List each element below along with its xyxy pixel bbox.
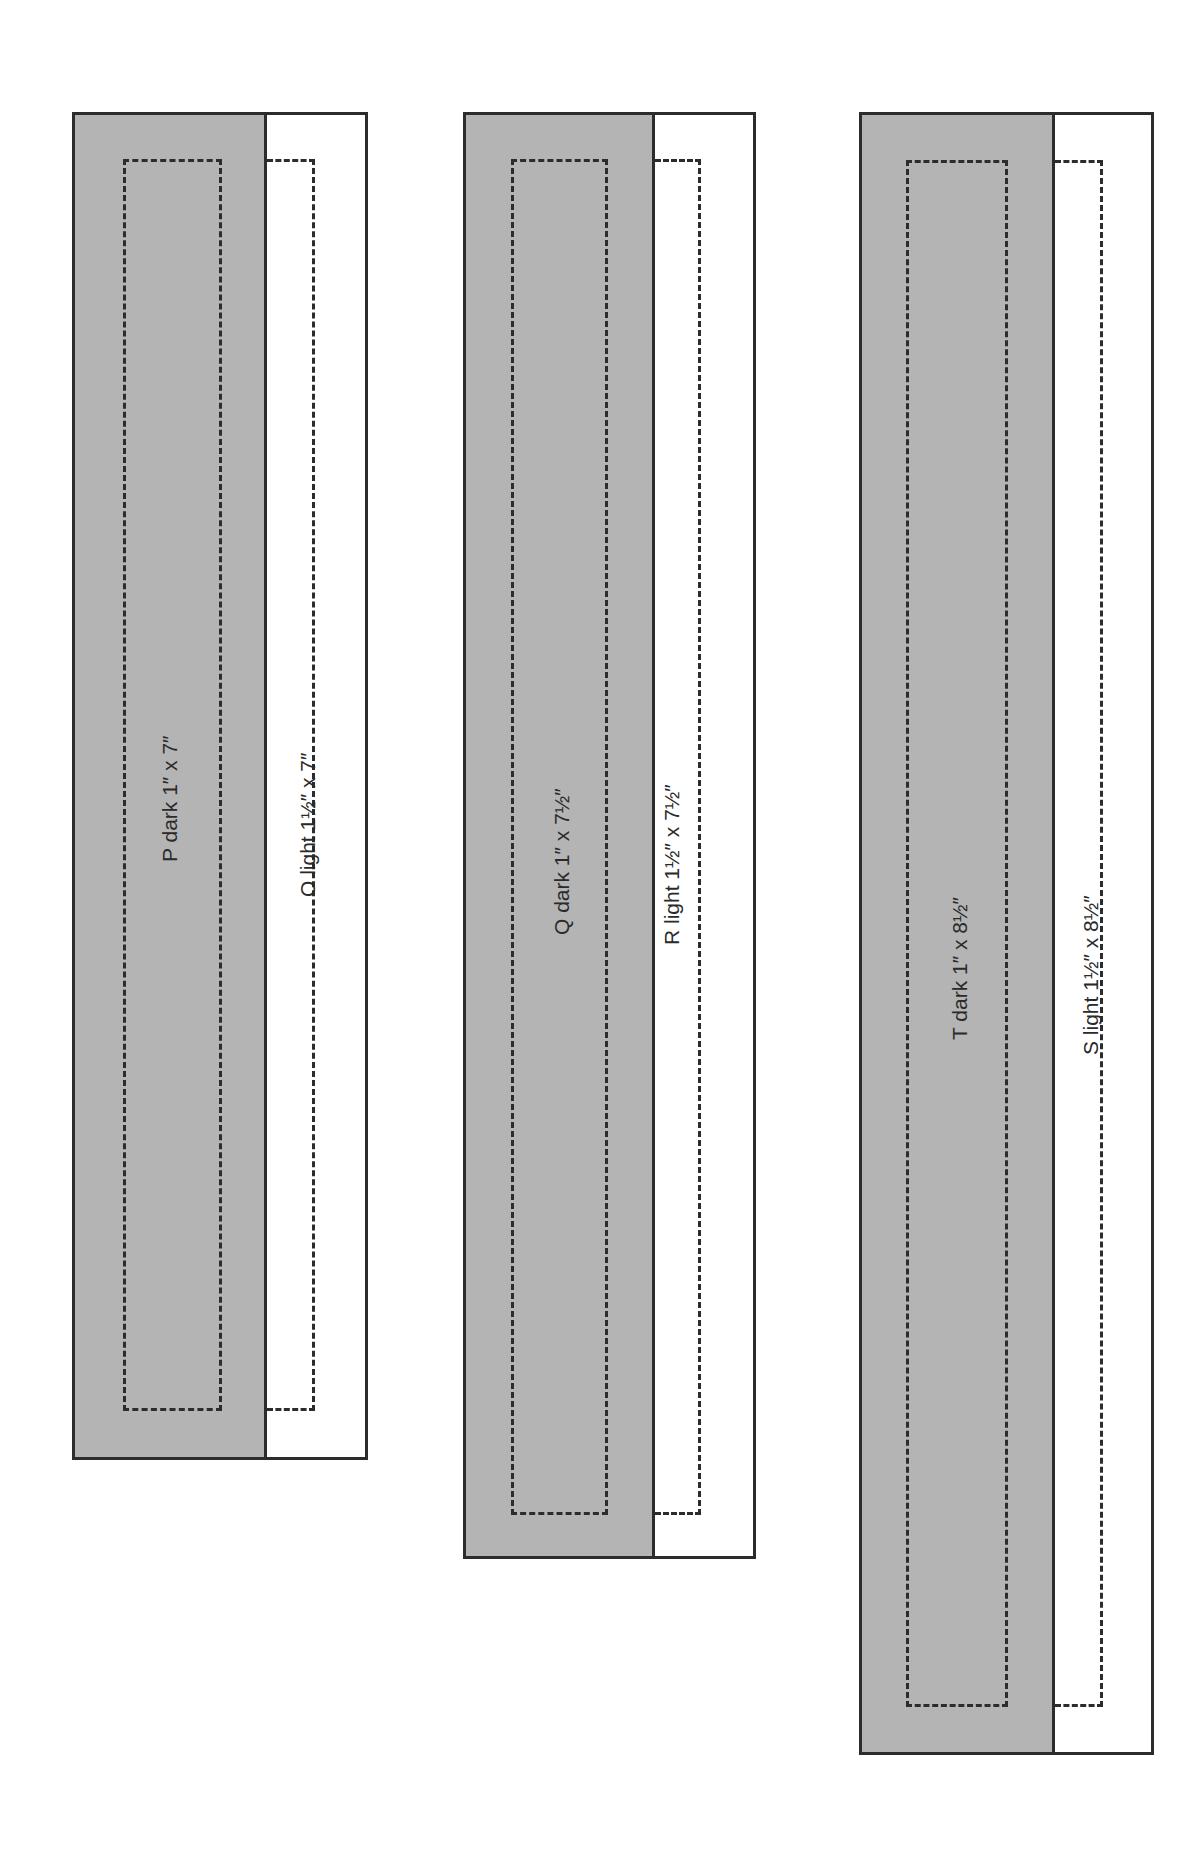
label-t: T dark 1″ x 8½″ <box>948 897 972 1040</box>
label-p: P dark 1″ x 7″ <box>158 735 182 862</box>
label-s: S light 1½″ x 8½″ <box>1079 895 1103 1055</box>
label-o: O light 1½″ x 7″ <box>296 753 320 897</box>
label-q: Q dark 1″ x 7½″ <box>550 788 574 935</box>
label-r: R light 1½″ x 7½″ <box>660 784 684 945</box>
